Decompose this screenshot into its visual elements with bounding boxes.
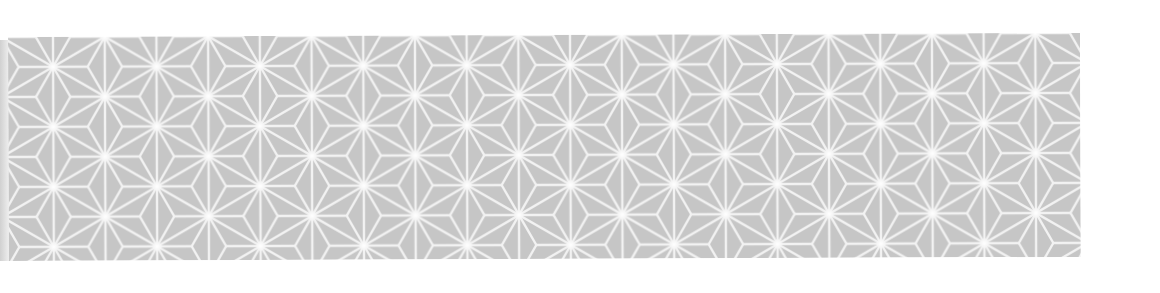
asanoha-pattern-band: asanoha	[8, 33, 1081, 261]
hemp-leaf-pattern-icon	[8, 33, 1081, 261]
